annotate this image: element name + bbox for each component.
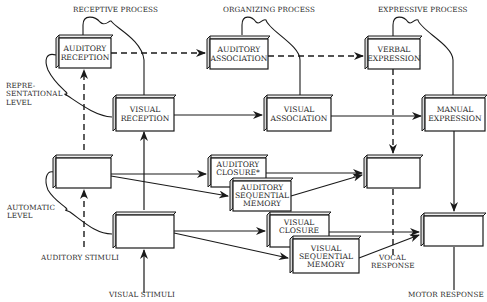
svg-text:VISUAL: VISUAL	[283, 105, 314, 114]
header-organizing-process: ORGANIZING PROCESS	[223, 5, 315, 14]
box-automatic-auditory	[53, 155, 113, 188]
box-vocal-output	[364, 155, 423, 188]
label-visual-stimuli: VISUAL STIMULI	[108, 290, 175, 299]
svg-text:MEMORY: MEMORY	[307, 260, 346, 269]
svg-text:EXPRESSION: EXPRESSION	[428, 114, 482, 123]
svg-text:CLOSURE*: CLOSURE*	[216, 168, 260, 177]
box-visual-sequential-memory: VISUAL SEQUENTIAL MEMORY	[290, 236, 361, 273]
level-automatic-line2: LEVEL	[7, 211, 33, 220]
label-vocal-response-line2: RESPONSE	[371, 261, 415, 270]
svg-text:EXPRESSION: EXPRESSION	[367, 54, 421, 63]
box-verbal-expression: VERBAL EXPRESSION	[365, 36, 422, 69]
level-representational-line3: LEVEL	[6, 98, 32, 107]
svg-text:MANUAL: MANUAL	[437, 105, 474, 114]
svg-text:VERBAL: VERBAL	[377, 45, 411, 54]
label-auditory-stimuli: AUDITORY STIMULI	[40, 253, 119, 262]
svg-text:ASSOCIATION: ASSOCIATION	[210, 54, 268, 63]
svg-text:AUDITORY: AUDITORY	[217, 45, 262, 54]
box-auditory-sequential-memory: AUDITORY SEQUENTIAL MEMORY	[230, 178, 293, 211]
box-manual-expression: MANUAL EXPRESSION	[422, 95, 487, 131]
svg-text:AUDITORY: AUDITORY	[63, 44, 108, 53]
header-receptive-process: RECEPTIVE PROCESS	[73, 5, 158, 14]
svg-text:MEMORY: MEMORY	[243, 199, 282, 208]
svg-text:RECEPTION: RECEPTION	[121, 114, 170, 123]
svg-text:RECEPTION: RECEPTION	[61, 53, 110, 62]
svg-text:ASSOCIATION: ASSOCIATION	[270, 114, 328, 123]
box-visual-association: VISUAL ASSOCIATION	[264, 95, 333, 131]
box-motor-output	[421, 213, 486, 246]
level-representational-line2: SENTATIONAL	[6, 89, 63, 98]
svg-text:VISUAL: VISUAL	[129, 105, 160, 114]
svg-text:CLOSURE: CLOSURE	[279, 226, 319, 235]
box-visual-reception: VISUAL RECEPTION	[113, 95, 176, 131]
box-auditory-association: AUDITORY ASSOCIATION	[207, 36, 270, 69]
diagram-canvas: RECEPTIVE PROCESS ORGANIZING PROCESS EXP…	[0, 0, 487, 302]
label-motor-response: MOTOR RESPONSE	[408, 290, 484, 299]
header-expressive-process: EXPRESSIVE PROCESS	[378, 5, 468, 14]
box-automatic-visual	[113, 212, 176, 248]
box-auditory-reception: AUDITORY RECEPTION	[56, 35, 113, 68]
arrow-aud-seqmem-to-vocal	[291, 175, 362, 196]
